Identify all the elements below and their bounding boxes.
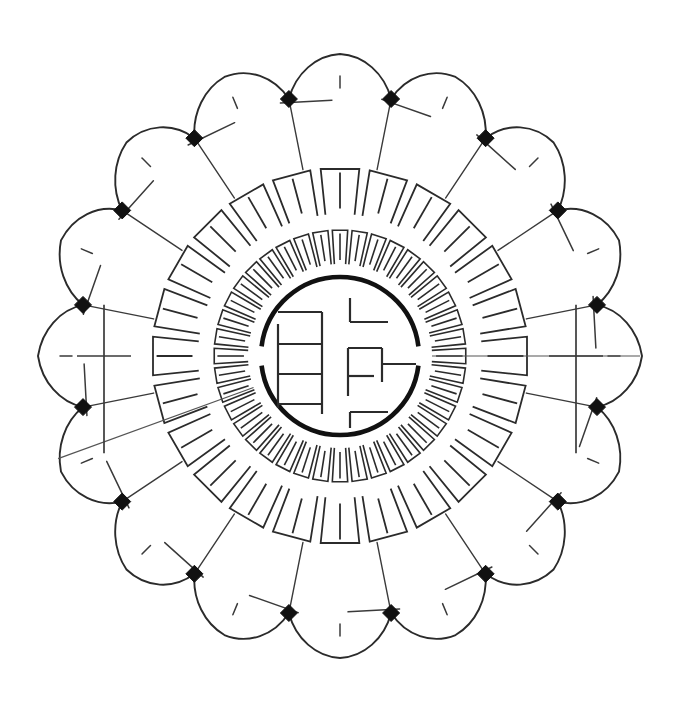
radial-strut xyxy=(498,462,555,500)
petal-outline xyxy=(194,574,289,639)
core-ring xyxy=(262,277,419,435)
petal-node xyxy=(477,130,494,147)
petal-outline xyxy=(558,407,620,503)
petal-spine xyxy=(233,97,238,108)
petal-node xyxy=(280,91,297,108)
outer-seat-block-divider xyxy=(444,460,469,485)
radial-strut xyxy=(446,514,484,571)
outer-seat-block xyxy=(398,471,450,528)
petal-outline xyxy=(60,209,122,305)
outer-seat-block-divider xyxy=(414,484,432,515)
outer-seat-block-divider xyxy=(414,197,432,228)
inner-seat-block-divider xyxy=(418,284,439,300)
inner-seat-block-divider xyxy=(396,257,412,278)
outer-seat-block xyxy=(154,289,207,334)
drawing-canvas xyxy=(0,0,680,708)
radial-strut xyxy=(526,306,593,319)
outer-seat-block xyxy=(455,414,512,466)
petal-spine xyxy=(81,459,92,464)
radial-strut xyxy=(87,306,154,319)
radial-strut xyxy=(290,542,303,609)
outer-seat-block-divider xyxy=(468,264,499,282)
inner-seat-block-divider xyxy=(408,424,427,443)
outer-seat-block xyxy=(168,414,225,466)
outer-seat-block-divider xyxy=(163,394,198,403)
petal-outline xyxy=(486,502,565,585)
petal-outline xyxy=(391,574,486,639)
petal-outline xyxy=(115,502,194,585)
outer-seat-block xyxy=(473,289,526,334)
petal-outline xyxy=(486,127,565,210)
inner-seat-block-divider xyxy=(435,337,461,341)
core-ring-arc xyxy=(262,366,419,435)
outer-seat-block-divider xyxy=(468,430,499,448)
radial-strut xyxy=(197,141,235,198)
inner-seat-block-divider xyxy=(241,412,262,428)
outer-seat-block xyxy=(230,184,282,241)
petal-node xyxy=(383,605,400,622)
petal-spine xyxy=(142,158,150,166)
outer-seat-block-divider xyxy=(163,309,198,318)
radial-strut xyxy=(446,141,484,198)
axis-line xyxy=(58,387,253,458)
radial-strut xyxy=(125,213,182,251)
outer-seat-block xyxy=(273,170,318,223)
outer-seat-block-divider xyxy=(482,309,517,318)
radial-strut xyxy=(377,103,390,170)
outer-seat-block-divider xyxy=(181,264,212,282)
outer-seat-block-divider xyxy=(293,179,302,214)
outer-seat-block-divider xyxy=(293,498,302,533)
inner-seat-block-divider xyxy=(355,235,359,261)
radial-strut xyxy=(498,213,555,251)
outer-seat-block-divider xyxy=(378,179,387,214)
inner-seat-block-divider xyxy=(219,371,245,375)
petal-spine xyxy=(443,604,448,615)
petal-node xyxy=(114,202,131,219)
outer-seat-block xyxy=(362,170,407,223)
inner-seat-block-divider xyxy=(321,451,325,477)
inner-seat-block-divider xyxy=(253,269,272,288)
inner-seat-block-divider xyxy=(396,434,412,455)
outer-seat-block xyxy=(273,489,318,542)
outer-seat-block-divider xyxy=(444,226,469,251)
outer-seat-block-divider xyxy=(248,484,266,515)
petal-spine xyxy=(233,604,238,615)
petal-outline xyxy=(115,127,194,210)
inner-seat-ring xyxy=(214,230,466,482)
petal-outline xyxy=(558,209,620,305)
petal-node xyxy=(549,493,566,510)
outer-seat-block xyxy=(168,246,225,298)
petal-spine xyxy=(81,249,92,254)
radial-strut xyxy=(125,462,182,500)
outer-seat-block xyxy=(398,184,450,241)
radial-strut xyxy=(197,514,235,571)
petal-spine xyxy=(588,459,599,464)
inner-seat-block-divider xyxy=(355,451,359,477)
petal-outline xyxy=(391,73,486,138)
outer-seat-block-divider xyxy=(248,197,266,228)
inner-seat-block-divider xyxy=(268,257,284,278)
inner-seat-block-divider xyxy=(321,235,325,261)
outer-seat-block-divider xyxy=(210,226,235,251)
outer-seat-block-divider xyxy=(482,394,517,403)
inner-seat-block-divider xyxy=(241,284,262,300)
radial-strut xyxy=(290,103,303,170)
inner-seat-block-divider xyxy=(219,337,245,341)
inner-seat-block-divider xyxy=(435,371,461,375)
petal-spine xyxy=(443,97,448,108)
outer-seat-block-divider xyxy=(378,498,387,533)
petal-spine xyxy=(142,546,150,554)
petal-spine xyxy=(530,158,538,166)
petal-spine xyxy=(530,546,538,554)
petal-spine xyxy=(588,249,599,254)
outer-seat-block-divider xyxy=(210,460,235,485)
radial-lotus-plan xyxy=(0,0,680,708)
outer-seat-block xyxy=(473,378,526,423)
inner-seat-block-divider xyxy=(253,424,272,443)
outer-seat-block-divider xyxy=(181,430,212,448)
inner-seat-block-divider xyxy=(408,269,427,288)
outer-seat-block xyxy=(362,489,407,542)
petal-node xyxy=(186,565,203,582)
outer-seat-block xyxy=(154,378,207,423)
core-glyph xyxy=(278,298,416,428)
